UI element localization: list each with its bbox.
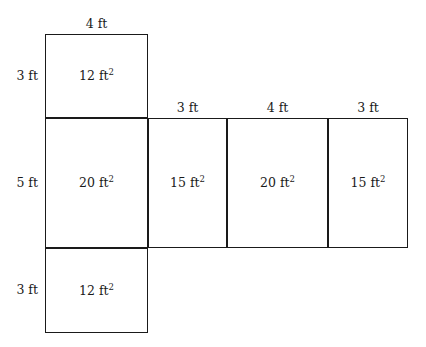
figure-canvas: 12 ft2 20 ft2 15 ft2 20 ft2 15 ft2 12 ft… xyxy=(0,0,426,347)
face-rect-middle-cell-3: 20 ft2 xyxy=(227,118,328,248)
dimension-label-middle-cell-4-width: 3 ft xyxy=(328,102,408,115)
dimension-label-top-face-width: 4 ft xyxy=(45,18,148,31)
face-area-label: 12 ft2 xyxy=(46,284,147,297)
face-rect-middle-cell-4: 15 ft2 xyxy=(328,118,408,248)
face-rect-middle-cell-2: 15 ft2 xyxy=(148,118,227,248)
face-area-label: 20 ft2 xyxy=(228,177,327,190)
face-rect-middle-cell-1: 20 ft2 xyxy=(45,118,148,248)
face-rect-top-face: 12 ft2 xyxy=(45,34,148,118)
face-area-label: 20 ft2 xyxy=(46,177,147,190)
dimension-label-top-face-height: 3 ft xyxy=(6,70,38,83)
dimension-label-bottom-face-height: 3 ft xyxy=(6,284,38,297)
face-rect-bottom-face: 12 ft2 xyxy=(45,248,148,333)
dimension-label-middle-cell-2-width: 3 ft xyxy=(148,102,227,115)
dimension-label-middle-row-height: 5 ft xyxy=(6,177,38,190)
dimension-label-middle-cell-3-width: 4 ft xyxy=(227,102,328,115)
face-area-label: 15 ft2 xyxy=(149,177,226,190)
face-area-label: 12 ft2 xyxy=(46,70,147,83)
face-area-label: 15 ft2 xyxy=(329,177,407,190)
